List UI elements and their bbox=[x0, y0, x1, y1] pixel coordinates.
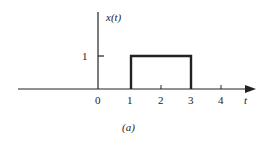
x-tick-label-2: 2 bbox=[158, 94, 164, 106]
x-tick-label-0: 0 bbox=[95, 94, 101, 106]
x-axis-label: t bbox=[244, 94, 248, 106]
y-axis-label: x(t) bbox=[105, 11, 122, 24]
x-tick-label-1: 1 bbox=[127, 94, 133, 106]
pulse-chart: x(t) 1 0 1 2 3 4 t (a) bbox=[0, 0, 269, 151]
x-axis-arrow-icon bbox=[245, 85, 256, 93]
x-tick-label-3: 3 bbox=[188, 94, 194, 106]
x-tick-label-4: 4 bbox=[218, 94, 224, 106]
figure-caption: (a) bbox=[122, 121, 135, 134]
y-tick-label-1: 1 bbox=[82, 50, 88, 62]
pulse-signal bbox=[131, 56, 191, 89]
